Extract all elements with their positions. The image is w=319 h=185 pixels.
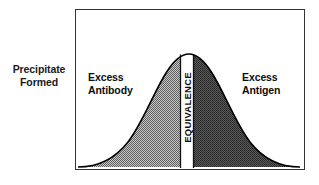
region-label-excess-antibody-line1: Excess (88, 71, 133, 84)
region-label-excess-antibody-line2: Antibody (88, 84, 133, 97)
region-label-excess-antigen: Excess Antigen (242, 71, 280, 96)
y-axis-label-line2: Formed (6, 76, 72, 89)
plot-area: Excess Antibody Excess Antigen EQUIVALEN… (75, 9, 305, 170)
region-label-excess-antigen-line2: Antigen (242, 84, 280, 97)
region-label-excess-antibody: Excess Antibody (88, 71, 133, 96)
precipitin-curve-figure: Precipitate Formed (0, 0, 319, 185)
equivalence-band (180, 10, 194, 168)
y-axis-label: Precipitate Formed (6, 63, 72, 88)
region-label-excess-antigen-line1: Excess (242, 71, 280, 84)
y-axis-label-line1: Precipitate (6, 63, 72, 76)
